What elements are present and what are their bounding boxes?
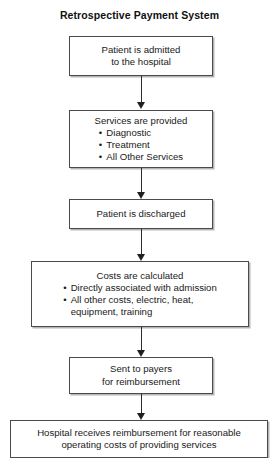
connector-shaft <box>141 229 142 255</box>
connector-payers-to-reimbursement <box>136 394 147 420</box>
node-hospital-receives-reimbursement-label: Hospital receives reimbursement for reas… <box>37 427 241 451</box>
list-item: All other costs, electric, heat, equipme… <box>63 294 217 318</box>
arrowhead-icon <box>137 254 145 261</box>
page-title: Retrospective Payment System <box>0 9 279 21</box>
list-item: All Other Services <box>99 151 183 163</box>
node-patient-admitted: Patient is admitted to the hospital <box>69 36 213 76</box>
list-item: Diagnostic <box>99 127 183 139</box>
connector-services-to-discharged <box>136 168 147 199</box>
arrowhead-icon <box>137 102 145 109</box>
node-patient-discharged-label: Patient is discharged <box>96 208 185 220</box>
services-bullet-list: Diagnostic Treatment All Other Services <box>99 127 183 164</box>
connector-shaft <box>141 168 142 193</box>
connector-shaft <box>141 76 142 103</box>
list-item: Treatment <box>99 139 183 151</box>
arrowhead-icon <box>137 350 145 357</box>
list-item: Directly associated with admission <box>63 282 217 294</box>
connector-shaft <box>141 327 142 351</box>
node-hospital-receives-reimbursement: Hospital receives reimbursement for reas… <box>10 420 268 458</box>
connector-costs-to-payers <box>136 327 147 357</box>
node-services-provided: Services are provided Diagnostic Treatme… <box>69 110 213 168</box>
node-patient-admitted-label: Patient is admitted to the hospital <box>102 44 181 68</box>
costs-bullet-list: Directly associated with admission All o… <box>63 282 217 319</box>
connector-shaft <box>141 394 142 414</box>
connector-admitted-to-services <box>136 76 147 109</box>
connector-discharged-to-costs <box>136 229 147 261</box>
node-sent-to-payers-label: Sent to payers for reimbursement <box>102 363 180 387</box>
node-costs-calculated: Costs are calculated Directly associated… <box>31 261 249 327</box>
node-costs-calculated-label: Costs are calculated <box>97 270 184 282</box>
arrowhead-icon <box>137 413 145 420</box>
node-patient-discharged: Patient is discharged <box>69 199 213 229</box>
node-sent-to-payers: Sent to payers for reimbursement <box>69 357 213 394</box>
arrowhead-icon <box>137 192 145 199</box>
node-services-provided-label: Services are provided <box>95 115 188 127</box>
